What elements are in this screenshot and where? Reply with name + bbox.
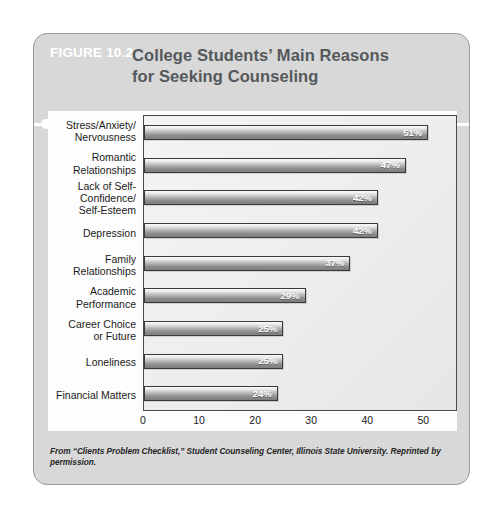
category-label-line: Relationships	[73, 164, 136, 176]
category-label-line: Financial Matters	[56, 389, 136, 401]
category-label-line: Lack of Self-	[78, 180, 136, 192]
category-label: RomanticRelationships	[48, 147, 143, 179]
bar-row: 42%	[144, 214, 456, 247]
bar: 47%	[144, 158, 406, 173]
bar-value-label: 37%	[325, 258, 349, 268]
axis-tick-label: 20	[249, 414, 261, 426]
chart-panel: Stress/Anxiety/NervousnessRomanticRelati…	[48, 111, 457, 431]
value-axis: 01020304050	[143, 411, 457, 431]
category-label-line: Loneliness	[86, 356, 136, 368]
bar-value-label: 47%	[381, 160, 405, 170]
axis-tick-label: 40	[361, 414, 373, 426]
bar-value-label: 29%	[281, 291, 305, 301]
axis-tick-label: 0	[140, 414, 146, 426]
category-label-line: Confidence/	[80, 192, 136, 204]
category-label-line: Stress/Anxiety/	[66, 119, 136, 131]
bar-row: 51%	[144, 116, 456, 149]
category-label-line: Family	[105, 253, 136, 265]
bar: 42%	[144, 223, 378, 238]
category-axis: Stress/Anxiety/NervousnessRomanticRelati…	[48, 115, 143, 411]
bar-row: 24%	[144, 377, 456, 410]
figure-header: FIGURE 10.2 College Students’ Main Reaso…	[34, 34, 469, 92]
chart-grid: Stress/Anxiety/NervousnessRomanticRelati…	[48, 115, 457, 411]
category-label-line: Performance	[76, 298, 136, 310]
axis-tick-label: 30	[305, 414, 317, 426]
category-label: Financial Matters	[48, 379, 143, 411]
bar: 37%	[144, 256, 350, 271]
bar-value-label: 42%	[353, 193, 377, 203]
bar-value-label: 25%	[258, 356, 282, 366]
bar-row: 42%	[144, 181, 456, 214]
bar-row: 25%	[144, 312, 456, 345]
category-label-line: or Future	[93, 330, 136, 342]
bar-value-label: 42%	[353, 226, 377, 236]
bar: 29%	[144, 288, 306, 303]
category-label: Lack of Self-Confidence/Self-Esteem	[48, 180, 143, 217]
category-label-line: Romantic	[92, 151, 136, 163]
category-label-line: Depression	[83, 227, 136, 239]
category-label: FamilyRelationships	[48, 249, 143, 281]
figure-title-line-2: for Seeking Counseling	[132, 66, 457, 87]
figure-number: FIGURE 10.2	[34, 45, 132, 61]
source-note: From “Clients Problem Checklist,” Studen…	[50, 446, 455, 468]
category-label: AcademicPerformance	[48, 282, 143, 314]
category-label-line: Relationships	[73, 265, 136, 277]
figure-title: College Students’ Main Reasons for Seeki…	[132, 45, 469, 87]
figure-title-line-1: College Students’ Main Reasons	[132, 45, 457, 66]
category-label: Loneliness	[48, 346, 143, 378]
bar-row: 25%	[144, 345, 456, 378]
category-label: Depression	[48, 217, 143, 249]
bar: 42%	[144, 190, 378, 205]
bar: 25%	[144, 354, 283, 369]
bar-value-label: 25%	[258, 324, 282, 334]
axis-tick-label: 10	[193, 414, 205, 426]
bar-value-label: 51%	[403, 128, 427, 138]
category-label: Career Choiceor Future	[48, 314, 143, 346]
bar-row: 37%	[144, 247, 456, 280]
axis-tick-label: 50	[418, 414, 430, 426]
category-label: Stress/Anxiety/Nervousness	[48, 115, 143, 147]
bar-row: 47%	[144, 149, 456, 182]
figure-card: FIGURE 10.2 College Students’ Main Reaso…	[33, 33, 470, 485]
category-label-line: Nervousness	[75, 131, 136, 143]
category-label-line: Self-Esteem	[79, 204, 136, 216]
bar-value-label: 24%	[253, 389, 277, 399]
bar: 24%	[144, 386, 278, 401]
category-label-line: Career Choice	[68, 318, 136, 330]
bar: 51%	[144, 125, 428, 140]
bar-row: 29%	[144, 279, 456, 312]
category-label-line: Academic	[90, 285, 136, 297]
plot-area: 51%47%42%42%37%29%25%25%24%	[143, 115, 457, 411]
bar: 25%	[144, 321, 283, 336]
